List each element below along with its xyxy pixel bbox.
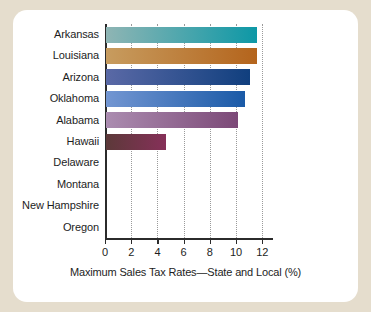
bar-row: Oklahoma (13, 88, 358, 109)
bar-row: Delaware (13, 152, 358, 173)
bar-louisiana (106, 48, 257, 64)
bar-row: Oregon (13, 217, 358, 238)
x-axis-title: Maximum Sales Tax Rates—State and Local … (13, 266, 358, 278)
category-label-louisiana: Louisiana (13, 45, 99, 66)
bar-row: New Hampshire (13, 195, 358, 216)
category-label-alabama: Alabama (13, 110, 99, 131)
category-label-new-hampshire: New Hampshire (13, 195, 99, 216)
bar-row: Montana (13, 174, 358, 195)
bar-arkansas (106, 27, 257, 43)
bar-row: Arizona (13, 67, 358, 88)
category-label-montana: Montana (13, 174, 99, 195)
x-tick-6 (184, 239, 185, 244)
bar-hawaii (106, 134, 166, 150)
bar-row: Louisiana (13, 45, 358, 66)
x-tick-label-12: 12 (247, 246, 277, 258)
x-tick-12 (262, 239, 263, 244)
category-label-oklahoma: Oklahoma (13, 88, 99, 109)
x-tick-8 (210, 239, 211, 244)
bar-row: Alabama (13, 110, 358, 131)
x-axis-spine (105, 238, 273, 240)
category-label-hawaii: Hawaii (13, 131, 99, 152)
x-tick-2 (131, 239, 132, 244)
bar-chart-plot-area: 024681012 ArkansasLouisianaArizonaOklaho… (13, 10, 358, 302)
category-label-oregon: Oregon (13, 217, 99, 238)
chart-card: 024681012 ArkansasLouisianaArizonaOklaho… (13, 10, 358, 302)
bar-row: Hawaii (13, 131, 358, 152)
x-tick-4 (157, 239, 158, 244)
bar-arizona (106, 69, 250, 85)
x-tick-10 (236, 239, 237, 244)
bar-alabama (106, 112, 238, 128)
category-label-arizona: Arizona (13, 67, 99, 88)
x-tick-0 (105, 239, 106, 244)
bar-row: Arkansas (13, 24, 358, 45)
category-label-arkansas: Arkansas (13, 24, 99, 45)
category-label-delaware: Delaware (13, 152, 99, 173)
bar-oklahoma (106, 91, 245, 107)
